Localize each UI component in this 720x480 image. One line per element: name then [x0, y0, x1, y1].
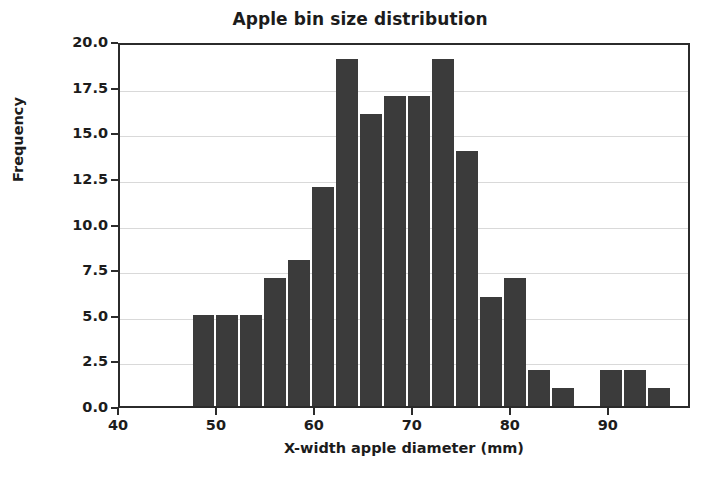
histogram-bar [456, 151, 478, 407]
y-axis-tick-label: 2.5 [46, 353, 108, 369]
x-axis-tick-label: 70 [392, 417, 432, 433]
y-axis-tick-mark [111, 133, 118, 135]
y-axis-tick-label: 7.5 [46, 262, 108, 278]
histogram-bar [264, 278, 286, 406]
y-axis-tick-label: 5.0 [46, 308, 108, 324]
x-axis-tick-mark [117, 408, 119, 415]
histogram-bar [360, 114, 382, 406]
x-axis-tick-mark [313, 408, 315, 415]
x-axis-tick-label: 40 [98, 417, 138, 433]
x-axis-tick-mark [411, 408, 413, 415]
y-axis-tick-label: 12.5 [46, 171, 108, 187]
y-axis-tick-mark [111, 225, 118, 227]
y-axis-tick-mark [111, 270, 118, 272]
histogram-bar [240, 315, 262, 406]
y-axis-tick-label: 0.0 [46, 399, 108, 415]
x-axis-tick-mark [509, 408, 511, 415]
x-axis-tick-mark [215, 408, 217, 415]
plot-area [118, 43, 690, 408]
y-axis-tick-mark [111, 179, 118, 181]
histogram-bar [408, 96, 430, 406]
histogram-bar [216, 315, 238, 406]
histogram-bar [336, 59, 358, 406]
histogram-bar [480, 297, 502, 407]
x-axis-tick-label: 80 [490, 417, 530, 433]
y-axis-label: Frequency [10, 97, 26, 182]
y-axis-tick-label: 10.0 [46, 217, 108, 233]
histogram-bar [504, 278, 526, 406]
histogram-bar [600, 370, 622, 407]
histogram-bar [312, 187, 334, 406]
histogram-bar [552, 388, 574, 406]
y-axis-tick-label: 17.5 [46, 80, 108, 96]
y-axis-tick-label: 15.0 [46, 125, 108, 141]
histogram-bar [193, 315, 215, 406]
histogram-bars [120, 45, 688, 406]
x-axis-tick-label: 60 [294, 417, 334, 433]
histogram-bar [432, 59, 454, 406]
x-axis-tick-label: 50 [196, 417, 236, 433]
histogram-bar [384, 96, 406, 406]
y-axis-tick-mark [111, 316, 118, 318]
y-axis-tick-label: 20.0 [46, 34, 108, 50]
x-axis-tick-label: 90 [588, 417, 628, 433]
y-axis-tick-mark [111, 361, 118, 363]
histogram-bar [288, 260, 310, 406]
x-axis-label: X-width apple diameter (mm) [118, 440, 690, 456]
y-axis-tick-mark [111, 42, 118, 44]
histogram-bar [624, 370, 646, 407]
x-axis-tick-mark [607, 408, 609, 415]
y-axis-tick-mark [111, 88, 118, 90]
histogram-bar [648, 388, 670, 406]
chart-title: Apple bin size distribution [0, 9, 720, 29]
histogram-bar [528, 370, 550, 407]
figure-canvas: Apple bin size distribution Frequency 0.… [0, 0, 720, 480]
